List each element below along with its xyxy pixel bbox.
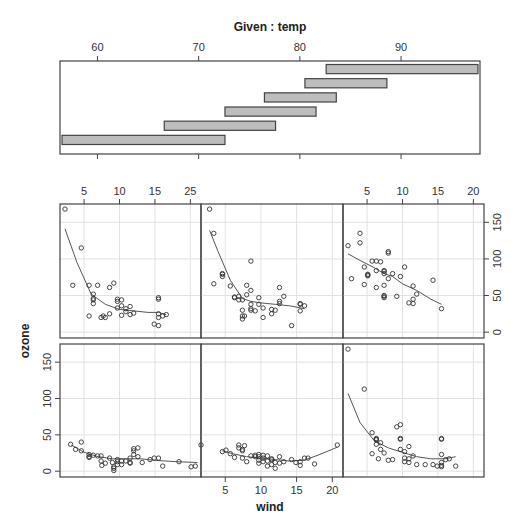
panel: 5101520 — [201, 344, 343, 496]
panel-frame — [60, 344, 201, 477]
data-point — [398, 447, 402, 451]
data-point — [362, 387, 366, 391]
data-point — [103, 461, 107, 465]
data-point — [240, 308, 244, 312]
data-point — [362, 282, 366, 286]
data-point — [376, 457, 380, 461]
data-point — [189, 465, 193, 469]
data-point — [439, 452, 443, 456]
data-point — [402, 265, 406, 269]
coplot-figure: Given : temp 60708090 050100150510152051… — [0, 0, 529, 532]
given-panel-title: Given : temp — [234, 20, 307, 34]
data-point — [107, 312, 111, 316]
x-tick-label: 5 — [222, 484, 228, 496]
data-point — [257, 296, 261, 300]
data-point — [249, 302, 253, 306]
data-point — [298, 309, 302, 313]
x-tick-label: 5 — [364, 185, 370, 197]
data-point — [152, 456, 156, 460]
data-point — [140, 460, 144, 464]
data-point — [273, 466, 277, 470]
data-point — [431, 462, 435, 466]
data-point — [136, 446, 140, 450]
data-point — [245, 460, 249, 464]
data-point — [395, 294, 399, 298]
data-point — [68, 442, 72, 446]
given-interval-bar — [305, 79, 387, 88]
data-point — [152, 322, 156, 326]
data-point — [282, 294, 286, 298]
data-point — [193, 464, 197, 468]
data-point — [112, 281, 116, 285]
data-point — [415, 462, 419, 466]
given-panel: 60708090 — [62, 41, 478, 159]
data-point — [390, 271, 394, 275]
data-point — [378, 260, 382, 264]
data-point — [207, 207, 211, 211]
data-point — [370, 259, 374, 263]
y-tick-label: 100 — [41, 389, 53, 407]
data-point — [212, 282, 216, 286]
data-point — [374, 259, 378, 263]
data-point — [240, 456, 244, 460]
data-point — [370, 431, 374, 435]
data-point — [302, 304, 306, 308]
data-point — [119, 313, 123, 317]
x-tick-label: 10 — [255, 484, 267, 496]
data-point — [362, 265, 366, 269]
given-tick-label: 60 — [91, 41, 103, 53]
data-point — [71, 283, 75, 287]
data-point — [431, 278, 435, 282]
y-tick-label: 0 — [41, 468, 53, 474]
data-point — [79, 246, 83, 250]
x-tick-label: 15 — [290, 484, 302, 496]
data-point — [261, 315, 265, 319]
given-interval-bar — [326, 65, 478, 74]
given-interval-bar — [264, 93, 336, 102]
data-point — [119, 304, 123, 308]
data-point — [439, 460, 443, 464]
given-tick-label: 70 — [193, 41, 205, 53]
data-point — [63, 207, 67, 211]
data-point — [346, 244, 350, 248]
y-tick-label: 100 — [491, 250, 503, 268]
given-tick-label: 80 — [294, 41, 306, 53]
data-point — [370, 452, 374, 456]
y-tick-label: 150 — [491, 213, 503, 231]
x-tick-label: 15 — [432, 185, 444, 197]
data-point — [346, 347, 350, 351]
data-point — [107, 285, 111, 289]
data-point — [245, 283, 249, 287]
data-point — [110, 460, 114, 464]
x-tick-label: 10 — [396, 185, 408, 197]
data-point — [382, 451, 386, 455]
data-point — [411, 301, 415, 305]
x-tick-label: 15 — [149, 185, 161, 197]
data-point — [265, 464, 269, 468]
data-point — [277, 285, 281, 289]
data-point — [454, 464, 458, 468]
x-tick-label: 20 — [467, 185, 479, 197]
data-point — [128, 304, 132, 308]
data-point — [378, 447, 382, 451]
data-point — [87, 314, 91, 318]
given-tick-label: 90 — [395, 41, 407, 53]
data-point — [277, 461, 281, 465]
data-point — [398, 423, 402, 427]
x-tick-label: 5 — [81, 185, 87, 197]
x-tick-label: 10 — [113, 185, 125, 197]
panel-frame — [343, 344, 484, 477]
data-point — [261, 306, 265, 310]
data-point — [79, 440, 83, 444]
data-point — [242, 444, 246, 448]
given-interval-bar — [164, 121, 275, 130]
panel-frame — [343, 204, 484, 338]
data-point — [249, 288, 253, 292]
data-point — [265, 459, 269, 463]
data-point — [269, 312, 273, 316]
y-tick-label: 0 — [491, 329, 503, 335]
y-tick-label: 50 — [491, 289, 503, 301]
data-point — [249, 259, 253, 263]
given-interval-bar — [62, 135, 225, 144]
panel — [343, 344, 484, 477]
